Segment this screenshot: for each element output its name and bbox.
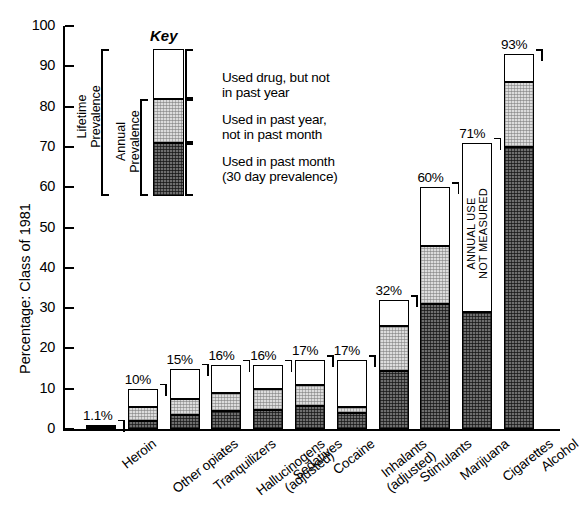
key-entry-line1: Used in past year, [222, 112, 326, 127]
bar-segment-light [295, 385, 325, 406]
bar-value-label: 17% [334, 343, 360, 358]
lifetime-prevalence-label: LifetimePrevalence [76, 43, 103, 190]
bar-segment-dark [128, 421, 158, 429]
bar-total-bracket [369, 355, 376, 367]
annual-prevalence-line1: Annual [115, 93, 129, 190]
bar-segment-dark [420, 304, 450, 429]
y-axis-tick [65, 428, 74, 430]
bar-segment-light [128, 407, 158, 421]
bar-marijuana[interactable] [420, 187, 450, 429]
bar-total-bracket [452, 182, 459, 194]
key-entry-line2: not in past month [222, 127, 326, 142]
bar-stimulants[interactable] [379, 300, 409, 429]
bar-segment-dark [295, 406, 325, 429]
y-axis-tick-label: 80 [21, 98, 55, 114]
y-axis-tick-label: 70 [21, 138, 55, 154]
bar-segment-dark [253, 410, 283, 429]
key-swatch-dark [153, 143, 184, 196]
bar-total-bracket [118, 420, 125, 432]
annual-prevalence-line2: Prevalence [129, 93, 143, 190]
y-axis-tick-label: 10 [21, 380, 55, 396]
bar-inhalants[interactable] [337, 360, 367, 429]
y-axis-tick-label: 0 [21, 420, 55, 436]
bar-segment-dark [462, 312, 492, 429]
bar-segment-light [253, 389, 283, 410]
bar-segment-white [253, 365, 283, 389]
key-title: Key [150, 27, 178, 44]
bar-segment-white [128, 389, 158, 407]
bar-hallucinogens[interactable] [211, 365, 241, 429]
annual-prevalence-label: AnnualPrevalence [115, 93, 142, 190]
y-axis-tick [65, 146, 74, 148]
bar-segment-light [379, 326, 409, 370]
y-axis-tick-label: 100 [21, 17, 55, 33]
bar-segment-light [337, 407, 367, 413]
bar-segment-dark [211, 411, 241, 429]
x-axis-line [63, 429, 560, 431]
bar-segment-dark [337, 413, 367, 429]
bar-segment-white [420, 187, 450, 245]
bar-value-label: 15% [167, 352, 193, 367]
key-entry-line2: in past year [222, 85, 329, 100]
bar-tranquilizers[interactable] [170, 369, 200, 429]
key-bracket-dark [185, 143, 193, 196]
bar-value-label: 93% [501, 37, 527, 52]
annual-use-not-measured-line2: NOT MEASURED [477, 178, 489, 288]
bar-segment-dark [86, 427, 116, 429]
bar-value-label: 17% [292, 343, 318, 358]
key-entry-line2: (30 day prevalence) [222, 169, 338, 184]
annual-use-not-measured-line1: ANNUAL USE [466, 178, 478, 288]
bar-total-bracket [536, 49, 543, 61]
y-axis-tick-label: 90 [21, 57, 55, 73]
bar-value-label: 32% [376, 283, 402, 298]
bar-segment-light [420, 246, 450, 304]
bar-value-label: 1.1% [83, 408, 113, 423]
bar-value-label: 10% [125, 372, 151, 387]
y-axis-tick [65, 25, 74, 27]
bar-segment-white [211, 365, 241, 393]
y-axis-tick [65, 388, 74, 390]
key-entry-3: Used in past month(30 day prevalence) [222, 154, 338, 184]
bar-other-opiates[interactable] [128, 389, 158, 429]
bar-segment-light [211, 393, 241, 411]
bar-sedatives[interactable] [253, 365, 283, 429]
bar-total-bracket [411, 295, 418, 307]
bar-segment-light [86, 425, 116, 427]
x-axis-category-label: Heroin [119, 436, 159, 472]
bar-value-label: 16% [208, 348, 234, 363]
annual-use-not-measured-annotation: ANNUAL USENOT MEASURED [466, 178, 489, 288]
bar-segment-dark [170, 415, 200, 429]
y-axis-tick [65, 227, 74, 229]
bar-segment-white [504, 54, 534, 82]
bar-segment-white [295, 360, 325, 384]
y-axis-tick-label: 60 [21, 178, 55, 194]
bar-alcohol[interactable] [504, 54, 534, 429]
bar-total-bracket [494, 138, 501, 150]
bar-segment-white [170, 369, 200, 399]
lifetime-prevalence-line2: Prevalence [90, 43, 104, 190]
key-bracket-light [185, 99, 193, 143]
bar-segment-light [170, 399, 200, 415]
key-entry-line1: Used in past month [222, 154, 338, 169]
key-swatch-stack [153, 49, 184, 196]
key-entry-line1: Used drug, but not [222, 70, 329, 85]
key-bracket-white [185, 49, 193, 99]
bar-segment-white [337, 360, 367, 406]
y-axis-tick [65, 186, 74, 188]
bar-cocaine[interactable] [295, 360, 325, 429]
y-axis-tick [65, 307, 74, 309]
key-swatch-white [153, 49, 184, 99]
bar-segment-dark [379, 371, 409, 429]
bar-total-bracket [202, 364, 209, 376]
bar-segment-dark [504, 147, 534, 429]
y-axis-title: Percentage: Class of 1981 [17, 203, 33, 374]
bar-segment-light [504, 82, 534, 146]
y-axis-tick [65, 347, 74, 349]
lifetime-prevalence-line1: Lifetime [76, 43, 90, 190]
category-label-line: Heroin [119, 436, 159, 472]
key-entry-2: Used in past year,not in past month [222, 112, 326, 142]
bar-heroin[interactable] [86, 425, 116, 429]
bar-value-label: 60% [417, 170, 443, 185]
y-axis-tick [65, 267, 74, 269]
